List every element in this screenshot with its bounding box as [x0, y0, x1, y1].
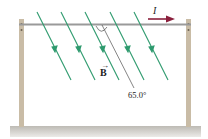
- angle-arc: [96, 26, 107, 31]
- current-direction-arrow: [148, 16, 175, 23]
- field-label: → B: [100, 68, 107, 78]
- ground: [10, 126, 201, 137]
- left-post: [19, 19, 24, 127]
- angle-label: 65.0°: [128, 91, 146, 100]
- vector-arrow-icon: →: [101, 62, 109, 70]
- right-post: [186, 19, 191, 127]
- current-label: I: [153, 6, 156, 16]
- arrow-right-icon: [166, 16, 175, 23]
